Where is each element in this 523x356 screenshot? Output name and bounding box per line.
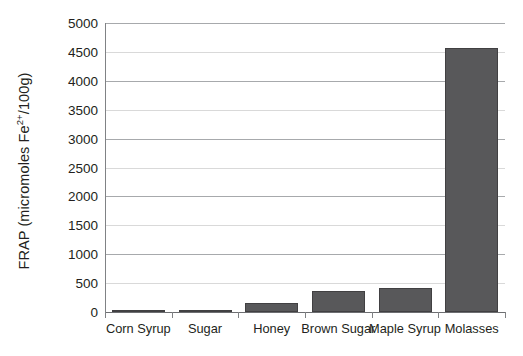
bars-layer <box>105 23 505 312</box>
x-tick-mark <box>372 312 373 318</box>
bar-slot <box>238 23 305 312</box>
y-tick-label: 3000 <box>38 131 98 146</box>
y-tick-label: 1500 <box>38 218 98 233</box>
bar-brown-sugar[interactable] <box>312 291 365 312</box>
bar-slot <box>372 23 439 312</box>
bar-molasses[interactable] <box>445 48 498 312</box>
bar-chart-figure: FRAP (micromoles Fe2+/100g) 050010001500… <box>0 0 523 356</box>
x-tick-mark <box>105 312 106 318</box>
bar-slot <box>172 23 239 312</box>
bar-slot <box>305 23 372 312</box>
y-tick-label: 2500 <box>38 160 98 175</box>
bar-slot <box>105 23 172 312</box>
y-tick-label: 500 <box>38 276 98 291</box>
x-tick-mark <box>172 312 173 318</box>
bar-slot <box>438 23 505 312</box>
y-tick-label: 4500 <box>38 44 98 59</box>
y-tick-label: 0 <box>38 305 98 320</box>
y-tick-label: 2000 <box>38 189 98 204</box>
x-tick-label-molasses: Molasses <box>429 321 515 336</box>
y-axis-title-superscript: 2+ <box>14 114 25 125</box>
x-tick-mark <box>438 312 439 318</box>
bar-maple-syrup[interactable] <box>379 288 432 312</box>
x-axis-labels: Corn SyrupSugarHoneyBrown SugarMaple Syr… <box>105 312 505 356</box>
y-tick-label: 4000 <box>38 73 98 88</box>
y-tick-label: 1000 <box>38 247 98 262</box>
y-axis-tick-labels: 0500100015002000250030003500400045005000 <box>30 0 98 356</box>
x-tick-mark <box>505 312 506 318</box>
bar-honey[interactable] <box>245 303 298 312</box>
x-tick-mark <box>305 312 306 318</box>
y-tick-label: 5000 <box>38 16 98 31</box>
x-tick-mark <box>238 312 239 318</box>
y-tick-label: 3500 <box>38 102 98 117</box>
